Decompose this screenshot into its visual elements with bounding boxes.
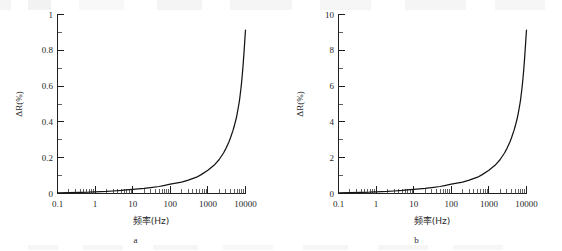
x-tick-label: 1 xyxy=(374,199,379,209)
x-tick-labels-b: 0.1 1 10 100 1000 10000 xyxy=(333,199,538,209)
y-minor-ticks-a xyxy=(58,32,62,175)
x-axis-title-a: 频率(Hz) xyxy=(133,215,170,226)
y-minor-ticks-b xyxy=(339,32,343,175)
figure-two-panel-chart: 1 0.8 0.6 0.4 0.2 0 xyxy=(0,0,562,251)
chart-panel-a: 1 0.8 0.6 0.4 0.2 0 xyxy=(0,0,281,251)
y-tick-labels-b: 10 8 6 4 2 0 xyxy=(325,10,335,199)
x-tick-label: 100 xyxy=(164,199,178,209)
y-tick-label: 0.6 xyxy=(42,81,54,91)
x-tick-label: 10000 xyxy=(234,199,257,209)
x-tick-label: 100 xyxy=(445,199,459,209)
x-tick-label: 0.1 xyxy=(333,199,344,209)
y-axis-title-text: ΔR(%) xyxy=(295,91,305,116)
y-tick-label: 0.8 xyxy=(42,45,54,55)
y-tick-label: 1 xyxy=(49,10,54,20)
y-tick-label: 0 xyxy=(49,189,54,199)
y-tick-label: 8 xyxy=(330,45,335,55)
x-tick-labels-a: 0.1 1 10 100 1000 10000 xyxy=(52,199,257,209)
y-tick-label: 4 xyxy=(330,117,335,127)
plot-svg-b: 10 8 6 4 2 0 xyxy=(281,0,562,251)
x-tick-label: 10 xyxy=(409,199,419,209)
y-tick-label: 0 xyxy=(330,189,335,199)
data-curve-a xyxy=(58,30,246,193)
plot-svg-a: 1 0.8 0.6 0.4 0.2 0 xyxy=(0,0,281,251)
y-tick-labels-a: 1 0.8 0.6 0.4 0.2 0 xyxy=(42,10,54,199)
panel-caption-a: a xyxy=(18,235,253,245)
data-curve-b xyxy=(339,30,527,193)
panel-caption-b: b xyxy=(299,235,534,245)
y-tick-label: 10 xyxy=(325,10,335,20)
chart-panel-b: 10 8 6 4 2 0 xyxy=(281,0,562,251)
scan-artifact-bottom xyxy=(28,245,528,250)
x-tick-label: 1000 xyxy=(480,199,499,209)
x-tick-label: 1000 xyxy=(199,199,218,209)
y-axis-title-a: ΔR(%) xyxy=(14,91,24,116)
y-tick-label: 0.2 xyxy=(42,153,53,163)
x-tick-label: 0.1 xyxy=(52,199,63,209)
y-axis-title-text: ΔR(%) xyxy=(14,91,24,116)
x-tick-label: 10000 xyxy=(515,199,538,209)
x-axis-title-b: 频率(Hz) xyxy=(414,215,451,226)
x-tick-label: 10 xyxy=(128,199,138,209)
y-axis-title-b: ΔR(%) xyxy=(295,91,305,116)
x-tick-label: 1 xyxy=(93,199,98,209)
y-tick-label: 2 xyxy=(330,153,335,163)
y-tick-label: 6 xyxy=(330,81,335,91)
y-tick-label: 0.4 xyxy=(42,117,54,127)
